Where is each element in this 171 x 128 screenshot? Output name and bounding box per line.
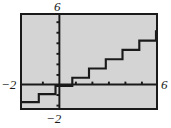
x-min-label: −2 bbox=[1, 78, 16, 91]
x-max-label: 6 bbox=[161, 78, 168, 91]
y-min-label: −2 bbox=[46, 112, 61, 125]
step-function-graph: 6 −2 −2 6 bbox=[0, 0, 171, 128]
plot-viewing-window bbox=[20, 13, 158, 110]
plot-canvas bbox=[22, 15, 156, 108]
y-max-label: 6 bbox=[54, 0, 61, 13]
